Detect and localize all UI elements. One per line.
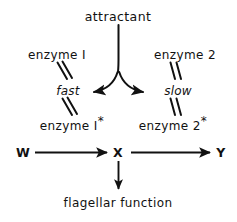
attractant-to-fast-connector bbox=[94, 72, 118, 92]
enzyme-2-star-label: enzyme 2* bbox=[139, 119, 208, 133]
enzyme-1-star-label: enzyme I* bbox=[40, 119, 104, 133]
enzyme-2-star-mark: * bbox=[201, 114, 207, 128]
node-w-label: W bbox=[16, 145, 30, 160]
enzyme-1-label: enzyme I bbox=[28, 48, 86, 62]
node-x-label: X bbox=[113, 145, 123, 160]
slow-to-enzyme-2-star-reversible bbox=[171, 99, 182, 116]
node-y-label: Y bbox=[216, 145, 225, 160]
fast-to-enzyme-1-star-reversible bbox=[63, 98, 78, 116]
enzyme-1-to-fast-reversible bbox=[58, 62, 73, 80]
fast-rate-label: fast bbox=[56, 84, 79, 98]
attractant-label: attractant bbox=[85, 9, 152, 24]
attractant-stem-connector bbox=[118, 25, 119, 72]
enzyme-2-star-base: enzyme 2 bbox=[139, 119, 201, 133]
attractant-to-slow-connector bbox=[119, 72, 143, 92]
enzyme-1-star-mark: * bbox=[98, 114, 104, 128]
enzyme-1-star-base: enzyme I bbox=[40, 119, 98, 133]
flagellar-function-label: flagellar function bbox=[64, 196, 173, 210]
signaling-pathway-diagram: attractant enzyme I enzyme 2 fast slow e… bbox=[0, 0, 237, 222]
diagram-connectors-layer bbox=[0, 0, 237, 222]
slow-rate-label: slow bbox=[164, 84, 192, 98]
enzyme-2-to-slow-reversible bbox=[171, 63, 182, 80]
enzyme-2-label: enzyme 2 bbox=[154, 48, 216, 62]
